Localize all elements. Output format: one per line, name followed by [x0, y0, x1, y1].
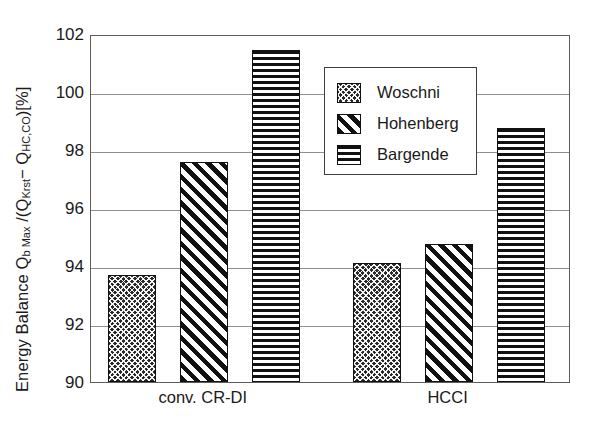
y-tick-label: 96 — [40, 200, 84, 217]
legend-item-woschni: Woschni — [337, 77, 476, 108]
y-axis-title-main1: Energy Balance Q — [13, 256, 31, 392]
y-tick-label: 92 — [40, 316, 84, 333]
y-axis-title-main4: )[%] — [13, 87, 31, 117]
legend: Woschni Hohenberg Bargende — [324, 67, 477, 175]
legend-label-hohenberg: Hohenberg — [377, 115, 459, 132]
legend-item-bargende: Bargende — [337, 139, 476, 170]
bar-bargende-hcci — [497, 128, 545, 382]
y-tick-label: 94 — [40, 258, 84, 275]
legend-swatch-bargende-icon — [337, 145, 361, 165]
bar-woschni-hcci — [353, 263, 401, 382]
y-tick-label: 100 — [40, 84, 84, 101]
y-tick-label: 90 — [40, 374, 84, 391]
bar-bargende-conv-cr-di — [252, 50, 300, 382]
y-axis-title-main2: /(Q — [13, 199, 31, 227]
bar-woschni-conv-cr-di — [108, 275, 156, 382]
y-axis-title-sub2: Krst — [20, 179, 32, 199]
legend-item-hohenberg: Hohenberg — [337, 108, 476, 139]
legend-swatch-woschni-icon — [337, 83, 361, 103]
y-axis-tick-labels: 1021009896949290 — [36, 0, 84, 400]
bar-hohenberg-conv-cr-di — [180, 162, 228, 382]
y-axis-title: Energy Balance Qb Max /(QKrst− QHC,CO)[%… — [0, 0, 40, 400]
x-tick-label: HCCI — [348, 389, 548, 406]
legend-swatch-hohenberg-icon — [337, 114, 361, 134]
y-axis-title-sub1: b Max — [20, 227, 32, 257]
y-tick-label: 98 — [40, 142, 84, 159]
bar-hohenberg-hcci — [425, 244, 473, 382]
y-axis-title-sub3: HC,CO — [20, 116, 32, 151]
legend-label-woschni: Woschni — [377, 84, 440, 101]
y-tick-label: 102 — [40, 26, 84, 43]
legend-label-bargende: Bargende — [377, 146, 449, 163]
bar-chart: Energy Balance Qb Max /(QKrst− QHC,CO)[%… — [0, 0, 592, 428]
y-axis-title-main3: − Q — [13, 152, 31, 179]
x-tick-label: conv. CR-DI — [103, 389, 303, 406]
